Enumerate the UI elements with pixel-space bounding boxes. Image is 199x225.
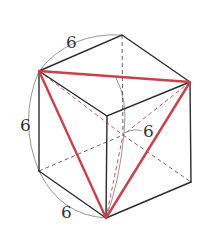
cube-edge-right-vertical: [190, 82, 191, 182]
hidden-edge-vertical: [122, 35, 123, 135]
label-top-edge: 6: [66, 32, 77, 52]
label-inner-height: 6: [143, 121, 154, 141]
hidden-diagonal-right: [123, 82, 190, 135]
hidden-diagonal-left: [39, 71, 123, 135]
cube-edge-bottom-right: [106, 182, 191, 218]
dimension-arc-inner: [106, 78, 125, 218]
red-triangle: [39, 71, 190, 218]
label-left-edge: 6: [20, 115, 31, 135]
cube-edge-front-vertical: [106, 116, 107, 218]
cube-diagram: 6 6 6 6: [0, 0, 199, 225]
label-bottom-edge: 6: [61, 202, 72, 222]
